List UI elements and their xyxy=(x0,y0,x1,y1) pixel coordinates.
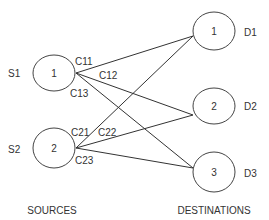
destinations-caption: DESTINATIONS xyxy=(177,205,250,216)
destination-node-d3: 3 xyxy=(193,152,235,192)
edge-s1-d3 xyxy=(76,73,193,168)
source-label-s2: S2 xyxy=(8,144,21,155)
edge-label-c22: C22 xyxy=(98,127,117,138)
source-label-s1: S1 xyxy=(8,68,21,79)
edge-label-c21: C21 xyxy=(71,127,90,138)
destination-label-d2: D2 xyxy=(244,101,257,112)
source-node-s2-number: 2 xyxy=(51,143,57,154)
edge-label-c12: C12 xyxy=(99,70,118,81)
sources-caption: SOURCES xyxy=(27,205,77,216)
edge-label-c11: C11 xyxy=(75,56,93,67)
source-node-s1: 1 xyxy=(33,55,75,91)
source-node-s1-number: 1 xyxy=(51,68,57,79)
edge-label-c23: C23 xyxy=(75,155,94,166)
edges xyxy=(76,36,193,168)
destination-node-d3-number: 3 xyxy=(211,167,217,178)
destination-label-d1: D1 xyxy=(244,27,257,38)
edge-label-c13: C13 xyxy=(70,88,89,99)
edge-s1-d2 xyxy=(76,73,193,115)
destination-node-d1: 1 xyxy=(193,12,235,50)
edge-s1-d1 xyxy=(76,36,193,73)
source-node-s2: 2 xyxy=(33,128,75,168)
destination-node-d1-number: 1 xyxy=(211,26,217,37)
edge-s2-d3 xyxy=(76,148,193,168)
destination-node-d2: 2 xyxy=(193,88,235,124)
transportation-network-diagram: 1 2 1 2 3 S1 S2 D1 D2 D3 C11 C12 C13 C21… xyxy=(0,0,269,220)
destination-node-d2-number: 2 xyxy=(211,101,217,112)
destination-label-d3: D3 xyxy=(244,168,257,179)
